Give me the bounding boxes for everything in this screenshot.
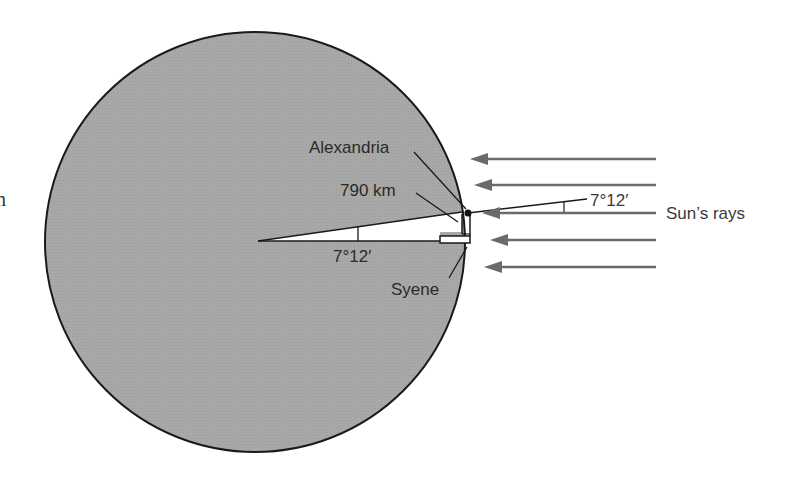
partial-left-text: n bbox=[0, 188, 6, 210]
sun-ray-arrow bbox=[490, 234, 656, 246]
syene-label: Syene bbox=[391, 280, 439, 299]
alexandria-label: Alexandria bbox=[309, 138, 390, 157]
eratosthenes-diagram: n bbox=[0, 0, 794, 478]
alexandria-ray-line bbox=[468, 199, 587, 213]
sun-ray-arrow bbox=[474, 179, 656, 191]
center-angle-label: 7°12′ bbox=[333, 247, 371, 266]
sun-rays-label: Sun’s rays bbox=[666, 204, 745, 223]
earth-circle bbox=[45, 32, 465, 452]
sun-ray-arrow bbox=[470, 153, 656, 165]
distance-label: 790 km bbox=[340, 181, 396, 200]
sun-ray-arrow bbox=[484, 261, 656, 273]
earth bbox=[45, 32, 465, 452]
sun-rays bbox=[470, 153, 656, 273]
rays-angle-label: 7°12′ bbox=[590, 191, 628, 210]
